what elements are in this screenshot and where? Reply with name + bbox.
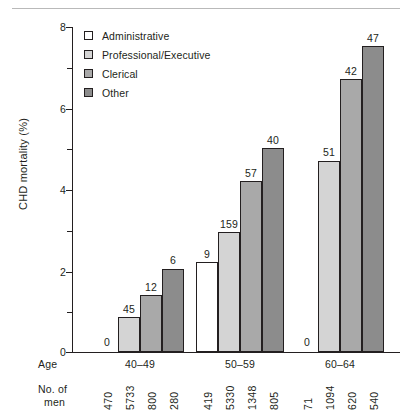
bar-label-60-64-other: 47 (362, 33, 384, 43)
bar-50-59-clerical (240, 181, 262, 352)
nmen-row-label-line2: men (44, 396, 65, 408)
legend-item-clerical: Clerical (84, 64, 210, 83)
nmen-40-49-administrative: 470 (102, 392, 114, 410)
bar-40-49-other (162, 269, 184, 353)
y-tick-label-8: 8 (40, 22, 66, 32)
legend-swatch-professional-executive (84, 50, 93, 59)
bar-label-50-59-other: 40 (262, 135, 284, 145)
nmen-60-64-other: 540 (368, 392, 380, 410)
bar-50-59-professional-executive (218, 232, 240, 352)
bar-label-60-64-administrative: 0 (296, 337, 318, 347)
bar-label-40-49-administrative: 0 (96, 337, 118, 347)
legend-item-other: Other (84, 83, 210, 102)
y-tick-label-2: 2 (40, 267, 66, 277)
bar-50-59-administrative (196, 262, 218, 352)
bar-label-60-64-professional-executive: 51 (318, 147, 340, 157)
bar-60-64-other (362, 46, 384, 352)
y-tick-label-0: 0 (40, 347, 66, 357)
y-tick-label-6: 6 (40, 104, 66, 114)
bar-40-49-professional-executive (118, 317, 140, 352)
header-divider (12, 8, 400, 9)
nmen-50-59-professional-executive: 5330 (224, 385, 236, 410)
bar-60-64-professional-executive (318, 161, 340, 353)
nmen-row-label-line1: No. of (38, 383, 67, 395)
nmen-40-49-clerical: 800 (146, 392, 158, 410)
nmen-40-49-other: 280 (168, 392, 180, 410)
nmen-40-49-professional-executive: 5733 (124, 385, 136, 410)
age-group-label-50-59: 50–59 (196, 358, 284, 370)
legend-swatch-clerical (84, 69, 93, 78)
chd-mortality-bar-chart: 8 6 4 2 0 CHD mortality (%) Administrati… (0, 0, 410, 420)
legend-label-clerical: Clerical (102, 68, 138, 80)
age-group-label-40-49: 40–49 (96, 358, 184, 370)
bar-label-40-49-clerical: 12 (140, 282, 162, 292)
age-row-label: Age (38, 358, 57, 370)
legend-label-administrative: Administrative (102, 30, 169, 42)
bar-40-49-clerical (140, 295, 162, 352)
bar-60-64-clerical (340, 79, 362, 352)
bar-label-50-59-professional-executive: 159 (218, 219, 240, 229)
bar-label-50-59-clerical: 57 (240, 168, 262, 178)
x-axis-line (72, 352, 400, 353)
legend-swatch-administrative (84, 31, 93, 40)
legend-item-professional-executive: Professional/Executive (84, 45, 210, 64)
bar-label-50-59-administrative: 9 (196, 249, 218, 259)
y-axis-line (72, 27, 73, 353)
nmen-60-64-clerical: 620 (346, 392, 358, 410)
nmen-60-64-administrative: 71 (302, 398, 314, 410)
bar-label-40-49-professional-executive: 45 (118, 304, 140, 314)
y-tick-label-4: 4 (40, 185, 66, 195)
nmen-50-59-clerical: 1348 (246, 385, 258, 410)
bar-label-40-49-other: 6 (162, 255, 184, 265)
nmen-50-59-other: 805 (268, 392, 280, 410)
legend-label-professional-executive: Professional/Executive (102, 49, 210, 61)
legend: Administrative Professional/Executive Cl… (84, 26, 210, 102)
bar-label-60-64-clerical: 42 (340, 66, 362, 76)
y-axis-title: CHD mortality (%) (17, 94, 29, 234)
legend-label-other: Other (102, 87, 129, 99)
bar-50-59-other (262, 148, 284, 352)
legend-item-administrative: Administrative (84, 26, 210, 45)
nmen-60-64-professional-executive: 1094 (324, 385, 336, 410)
legend-swatch-other (84, 88, 93, 97)
age-group-label-60-64: 60–64 (296, 358, 384, 370)
nmen-50-59-administrative: 419 (202, 392, 214, 410)
